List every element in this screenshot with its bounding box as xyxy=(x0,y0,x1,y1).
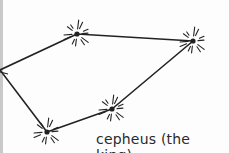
star-ray xyxy=(192,46,193,53)
star-dot xyxy=(109,106,114,111)
star-ray xyxy=(115,97,118,103)
star-ray xyxy=(64,34,72,35)
star-ray xyxy=(107,114,109,119)
star-dot xyxy=(74,31,79,36)
connection-bottom-middle-to-top-right xyxy=(112,41,193,109)
star-ray xyxy=(76,39,77,46)
connection-left-edge-to-bottom-left xyxy=(0,70,47,132)
star-ray xyxy=(72,39,74,44)
star-ray xyxy=(34,135,40,138)
constellation-diagram: cepheus (the king) xyxy=(0,0,229,153)
star-ray xyxy=(46,137,47,144)
star-ray xyxy=(80,22,83,28)
star-ray xyxy=(116,115,119,120)
star-bottom-middle xyxy=(99,95,123,121)
star-ray xyxy=(99,109,107,110)
star-ray xyxy=(187,32,189,35)
star-ray xyxy=(196,29,199,35)
star-ray xyxy=(188,46,190,51)
star-ray xyxy=(113,95,114,104)
star-ray xyxy=(183,34,188,38)
star-ray xyxy=(111,114,112,121)
star-ray xyxy=(78,20,79,29)
star-dot xyxy=(190,38,195,43)
star-ray xyxy=(102,102,107,106)
constellation-label: cepheus (the king) xyxy=(96,131,229,153)
star-ray xyxy=(199,36,204,38)
star-ray xyxy=(194,27,195,36)
star-bottom-left xyxy=(34,118,58,144)
star-ray xyxy=(67,27,72,31)
star-ray xyxy=(42,137,44,142)
star-dot xyxy=(44,129,49,134)
star-ray xyxy=(0,72,8,74)
star-ray xyxy=(81,40,84,45)
star-ray xyxy=(48,118,49,127)
star-top-left xyxy=(64,20,88,46)
star-ray xyxy=(106,100,108,103)
star-ray xyxy=(118,104,123,106)
star-ray xyxy=(197,47,200,52)
star-ray xyxy=(71,25,73,28)
star-ray xyxy=(51,138,54,143)
star-left-edge xyxy=(0,72,8,74)
star-ray xyxy=(50,120,53,126)
star-ray xyxy=(34,132,42,133)
star-ray xyxy=(180,41,188,42)
connection-top-left-to-top-right xyxy=(77,34,193,41)
star-ray xyxy=(180,44,186,47)
connection-bottom-left-to-bottom-middle xyxy=(47,109,112,132)
star-ray xyxy=(83,29,88,31)
